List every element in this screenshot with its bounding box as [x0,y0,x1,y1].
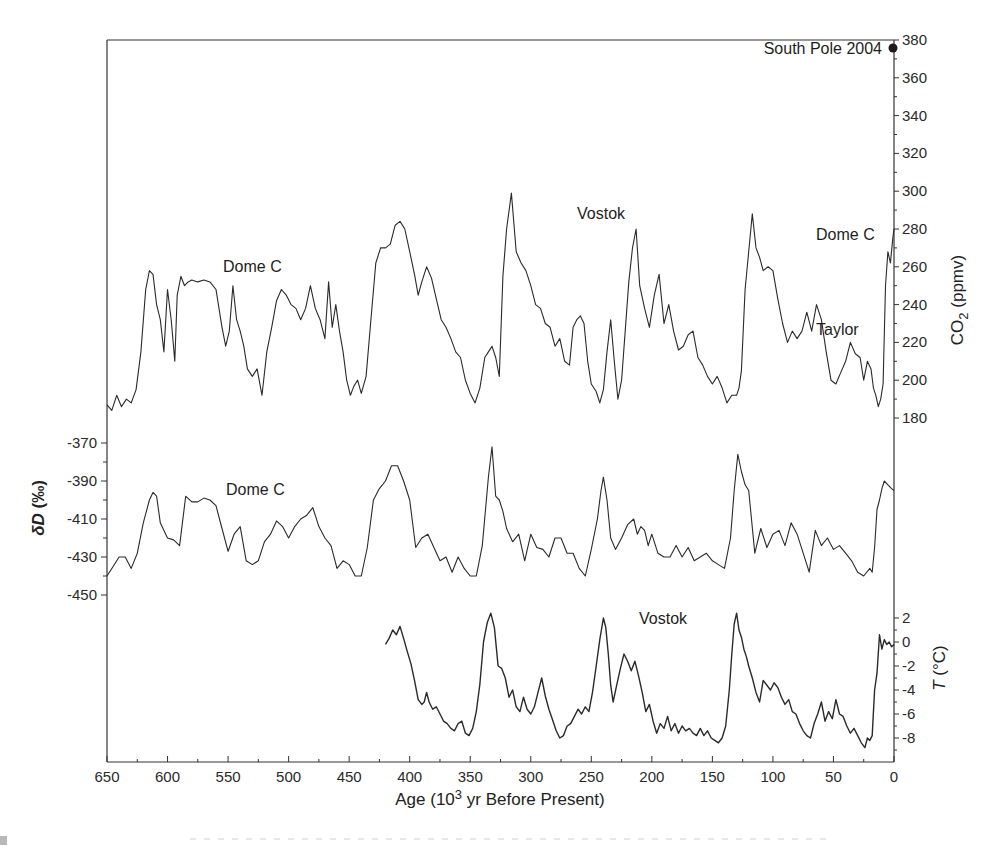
x-tick-label: 300 [518,768,543,785]
temperature-series-line [386,613,895,747]
x-tick-label: 100 [760,768,785,785]
co2-tick-label: 260 [902,258,927,275]
faint-caption-text [190,838,830,840]
temperature-tick-label: -8 [902,729,915,746]
temperature-tick-label: 0 [902,633,910,650]
dd-tick-label: -450 [67,586,97,603]
temperature-axis-title: T (°C) [930,645,949,691]
dd-axis-ticks: -370-390-410-430-450 [67,434,107,603]
x-tick-label: 350 [458,768,483,785]
annotation-co2-dome-c: Dome C [223,258,282,275]
deuterium-series-line [107,447,894,576]
x-tick-label: 500 [276,768,301,785]
dd-tick-label: -370 [67,434,97,451]
x-tick-label: 450 [337,768,362,785]
co2-tick-label: 280 [902,220,927,237]
dd-tick-label: -390 [67,472,97,489]
dd-tick-label: -410 [67,510,97,527]
co2-axis-ticks: 380360340320300280260240220200180 [894,31,927,426]
annotation-co2-taylor: Taylor [816,321,859,338]
page-corner-mark [0,836,7,845]
x-axis-title: Age (103 yr Before Present) [395,787,604,809]
co2-tick-label: 320 [902,144,927,161]
x-tick-label: 600 [155,768,180,785]
dd-axis-title: δD (‰) [29,480,48,536]
co2-series-line [107,193,894,410]
x-tick-label: 550 [216,768,241,785]
annotation-co2-vostok: Vostok [577,205,626,222]
x-tick-label: 50 [825,768,842,785]
co2-tick-label: 180 [902,409,927,426]
co2-tick-label: 340 [902,107,927,124]
annotation-dd-dome-c: Dome C [226,481,285,498]
co2-tick-label: 380 [902,31,927,48]
x-tick-label: 250 [579,768,604,785]
co2-axis-title: CO2 (ppmv) [948,255,971,345]
plot-frame [107,40,894,762]
x-tick-label: 650 [94,768,119,785]
co2-tick-label: 220 [902,333,927,350]
x-tick-label: 400 [397,768,422,785]
temperature-axis-ticks: 20-2-4-6-8 [894,609,915,750]
x-axis-ticks: 650600550500450400350300250200150100500 [94,756,898,785]
temperature-tick-label: -4 [902,681,915,698]
co2-tick-label: 200 [902,371,927,388]
annotation-south-pole-2004: South Pole 2004 [764,40,882,57]
co2-tick-label: 300 [902,182,927,199]
co2-tick-label: 360 [902,69,927,86]
annotation-co2-dome-c-recent: Dome C [816,226,875,243]
temperature-tick-label: -6 [902,705,915,722]
x-tick-label: 150 [700,768,725,785]
co2-tick-label: 240 [902,296,927,313]
dd-tick-label: -430 [67,548,97,565]
x-tick-label: 200 [639,768,664,785]
temperature-tick-label: -2 [902,657,915,674]
x-tick-label: 0 [890,768,898,785]
south-pole-2004-marker [889,44,898,53]
annotation-t-vostok: Vostok [639,610,688,627]
temperature-tick-label: 2 [902,609,910,626]
ice-core-chart: 650600550500450400350300250200150100500 … [0,0,985,846]
